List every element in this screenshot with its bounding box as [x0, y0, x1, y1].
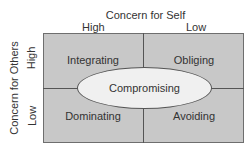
compromising-label: Compromising — [109, 82, 180, 94]
self-high-label: High — [82, 21, 105, 33]
others-high-label: High — [25, 47, 37, 70]
compromising-ellipse: Compromising — [77, 67, 212, 109]
quadrant-integrating: Integrating — [43, 54, 143, 66]
quadrant-dominating: Dominating — [43, 110, 143, 122]
others-low-label: Low — [26, 106, 38, 126]
quadrant-obliging: Obliging — [144, 54, 244, 66]
quadrant-avoiding: Avoiding — [144, 110, 244, 122]
self-low-label: Low — [186, 21, 206, 33]
concern-for-self-axis-title: Concern for Self — [0, 9, 251, 21]
concern-for-others-axis-title: Concern for Others — [8, 38, 20, 138]
